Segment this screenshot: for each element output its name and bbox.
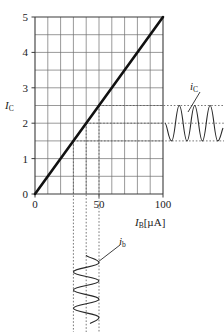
ic-leader-line (188, 92, 200, 112)
ib-leader-line (98, 245, 120, 262)
y-tick-2: 2 (14, 117, 28, 129)
x-tick-0: 0 (23, 198, 47, 210)
y-tick-3: 3 (14, 82, 28, 94)
y-axis-label: IC (5, 99, 14, 111)
x-axis-label-sub: B (139, 221, 144, 230)
y-axis-label-sub: C (9, 104, 14, 113)
output-waveform-label-sub: C (193, 85, 198, 94)
y-tick-5: 5 (14, 11, 28, 23)
output-waveform-ic (165, 106, 223, 141)
y-tick-4: 4 (14, 46, 28, 58)
x-tick-50: 50 (87, 198, 111, 210)
x-tick-100: 100 (151, 198, 175, 210)
input-waveform-label-sub: b (122, 240, 126, 249)
x-axis-label: IB[µA] (135, 216, 165, 228)
transfer-characteristic-figure (0, 0, 224, 332)
input-waveform-label: ib (119, 235, 126, 247)
output-waveform-label: iC (190, 80, 198, 92)
y-tick-1: 1 (14, 153, 28, 165)
x-axis-unit: [µA] (144, 216, 166, 228)
input-waveform-ib (73, 255, 99, 324)
